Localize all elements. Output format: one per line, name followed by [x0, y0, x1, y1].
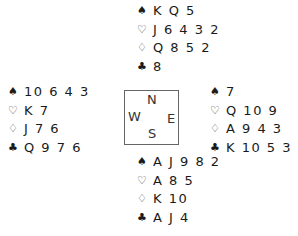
east-hearts-cards: Q 10 9 — [226, 102, 278, 121]
south-spades: ♠A J 9 8 2 — [137, 153, 221, 172]
spade-icon: ♠ — [137, 153, 153, 172]
east-hand: ♠7 ♡Q 10 9 ♢A 9 4 3 ♣K 10 5 3 2 — [210, 83, 298, 157]
diamond-icon: ♢ — [210, 120, 226, 139]
west-spades: ♠10 6 4 3 — [8, 83, 90, 102]
diamond-icon: ♢ — [137, 39, 153, 58]
west-hearts-cards: K 7 — [24, 102, 49, 121]
west-hand: ♠10 6 4 3 ♡K 7 ♢J 7 6 ♣Q 9 7 6 — [8, 83, 90, 157]
compass-box: N W E S — [124, 90, 179, 145]
east-diamonds-cards: A 9 4 3 — [226, 120, 283, 139]
diamond-icon: ♢ — [8, 120, 24, 139]
heart-icon: ♡ — [137, 21, 153, 40]
west-diamonds-cards: J 7 6 — [24, 120, 60, 139]
south-hearts-cards: A 8 5 — [153, 172, 194, 191]
north-hearts-cards: J 6 4 3 2 — [153, 21, 220, 40]
north-clubs-cards: 8 — [153, 58, 163, 77]
south-hand: ♠A J 9 8 2 ♡A 8 5 ♢K 10 ♣A J 4 — [137, 153, 221, 227]
south-hearts: ♡A 8 5 — [137, 172, 221, 191]
compass-south: S — [148, 126, 156, 141]
club-icon: ♣ — [137, 58, 153, 77]
north-spades: ♠K Q 5 — [137, 2, 220, 21]
north-hearts: ♡J 6 4 3 2 — [137, 21, 220, 40]
heart-icon: ♡ — [210, 102, 226, 121]
east-diamonds: ♢A 9 4 3 — [210, 120, 298, 139]
west-clubs: ♣Q 9 7 6 — [8, 139, 90, 158]
club-icon: ♣ — [137, 209, 153, 228]
north-hand: ♠K Q 5 ♡J 6 4 3 2 ♢Q 8 5 2 ♣8 — [137, 2, 220, 76]
east-clubs: ♣K 10 5 3 2 — [210, 139, 298, 158]
east-clubs-cards: K 10 5 3 2 — [226, 139, 298, 158]
compass-east: E — [167, 111, 175, 126]
diamond-icon: ♢ — [137, 190, 153, 209]
spade-icon: ♠ — [137, 2, 153, 21]
north-diamonds: ♢Q 8 5 2 — [137, 39, 220, 58]
west-hearts: ♡K 7 — [8, 102, 90, 121]
spade-icon: ♠ — [210, 83, 226, 102]
south-clubs: ♣A J 4 — [137, 209, 221, 228]
west-clubs-cards: Q 9 7 6 — [24, 139, 82, 158]
east-spades-cards: 7 — [226, 83, 236, 102]
east-spades: ♠7 — [210, 83, 298, 102]
heart-icon: ♡ — [137, 172, 153, 191]
west-diamonds: ♢J 7 6 — [8, 120, 90, 139]
north-clubs: ♣8 — [137, 58, 220, 77]
north-spades-cards: K Q 5 — [153, 2, 196, 21]
compass-west: W — [128, 109, 141, 124]
compass-north: N — [147, 92, 157, 107]
south-clubs-cards: A J 4 — [153, 209, 190, 228]
south-spades-cards: A J 9 8 2 — [153, 153, 221, 172]
south-diamonds-cards: K 10 — [153, 190, 188, 209]
east-hearts: ♡Q 10 9 — [210, 102, 298, 121]
north-diamonds-cards: Q 8 5 2 — [153, 39, 211, 58]
heart-icon: ♡ — [8, 102, 24, 121]
west-spades-cards: 10 6 4 3 — [24, 83, 90, 102]
club-icon: ♣ — [8, 139, 24, 158]
spade-icon: ♠ — [8, 83, 24, 102]
south-diamonds: ♢K 10 — [137, 190, 221, 209]
